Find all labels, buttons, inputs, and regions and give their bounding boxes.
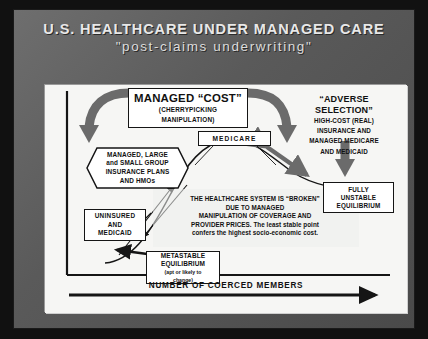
- hmo-line2: and SMALL GROUP: [87, 159, 188, 168]
- managed-cost-sub2: MANIPULATION): [129, 116, 247, 124]
- center-note-line3: MANIPULATION OF COVERAGE AND: [155, 212, 355, 221]
- hmo-line4: AND HMOs: [87, 177, 188, 186]
- center-note-line1: THE HEALTHCARE SYSTEM IS “BROKEN”: [155, 195, 355, 204]
- medicare-label: MEDICARE: [199, 135, 270, 142]
- node-medicare[interactable]: MEDICARE: [198, 131, 271, 146]
- managed-cost-title: MANAGED “COST”: [129, 92, 247, 104]
- fully-unstable-line1: FULLY: [324, 186, 393, 194]
- node-managed-plans[interactable]: MANAGED, LARGE and SMALL GROUP INSURANCE…: [87, 148, 188, 188]
- cost-right-curved-arrow: [248, 93, 287, 127]
- uninsured-line1: UNINSURED: [85, 212, 145, 220]
- hmo-line1: MANAGED, LARGE: [87, 151, 188, 160]
- uninsured-line3: MEDICAID: [85, 229, 145, 237]
- node-metastable-equilibrium[interactable]: METASTABLE EQUILIBRIUM (apt or likely to…: [146, 251, 220, 284]
- metastable-line3: (apt or likely to: [147, 269, 219, 275]
- cost-left-curved-arrow: [89, 93, 129, 127]
- managed-cost-sub1: (CHERRYPICKING: [129, 106, 247, 114]
- uninsured-line2: AND: [85, 221, 145, 229]
- title-block: U.S. HEALTHCARE UNDER MANAGED CARE "post…: [14, 14, 414, 80]
- adverse-line4: AND MEDICAID: [285, 148, 403, 156]
- center-note-line5: confers the highest socio-economic cost.: [155, 229, 355, 238]
- adverse-down-arrowhead: [335, 159, 355, 177]
- label-adverse-selection: “ADVERSE SELECTION” HIGH-COST (REAL) INS…: [285, 94, 403, 156]
- adverse-line2: INSURANCE AND: [285, 127, 403, 135]
- metastable-line2: EQUILIBRIUM: [147, 260, 219, 268]
- slide-root: U.S. HEALTHCARE UNDER MANAGED CARE "post…: [0, 0, 428, 339]
- x-axis-label: NUMBER OF COERCED MEMBERS: [45, 281, 407, 290]
- cost-left-arrowhead: [79, 125, 99, 143]
- node-managed-cost[interactable]: MANAGED “COST” (CHERRYPICKING MANIPULATI…: [128, 88, 248, 128]
- hmo-line3: INSURANCE PLANS: [87, 168, 188, 177]
- node-uninsured-medicaid[interactable]: UNINSURED AND MEDICAID: [84, 209, 146, 241]
- adverse-line1: HIGH-COST (REAL): [285, 117, 403, 125]
- adverse-heading2: SELECTION”: [285, 105, 403, 116]
- metastable-line1: METASTABLE: [147, 252, 219, 260]
- diagram-panel: MANAGED “COST” (CHERRYPICKING MANIPULATI…: [45, 85, 407, 313]
- center-note-line2: DUE TO MANAGED: [155, 204, 355, 213]
- page-title: U.S. HEALTHCARE UNDER MANAGED CARE: [14, 21, 414, 37]
- center-note: THE HEALTHCARE SYSTEM IS “BROKEN” DUE TO…: [155, 195, 355, 238]
- page-subtitle: "post-claims underwriting": [14, 39, 414, 54]
- adverse-line3: MANAGED MEDICARE: [285, 137, 403, 145]
- center-note-line4: PROVIDER PRICES. The least stable point: [155, 221, 355, 230]
- adverse-heading1: “ADVERSE: [285, 94, 403, 105]
